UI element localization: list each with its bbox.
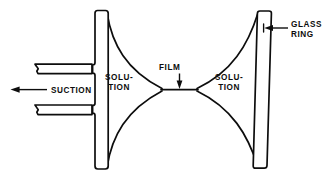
label-glass-ring-line2: RING [291,30,314,39]
diagram-canvas [0,0,329,178]
suction-tube-upper-wall [35,64,92,73]
label-glass-ring: GLASSRING [291,20,322,40]
label-solution-left-line1: SOLU- [105,73,133,82]
label-solution-right: SOLU-TION [215,73,243,93]
label-solution-left-line2: TION [108,83,130,92]
film-arrowhead-icon [177,81,183,89]
label-glass-ring-line1: GLASS [291,20,322,29]
lower-meniscus-right-curve [197,91,258,167]
label-solution-right-line2: TION [218,83,240,92]
label-solution-left: SOLU-TION [105,73,133,93]
right-glass-ring-body [253,11,271,168]
suction-arrowhead-icon [11,87,20,93]
figure-container: SUCTION SOLU-TION SOLU-TION FILM GLASSRI… [0,0,329,178]
lower-meniscus-left-curve [107,91,162,167]
label-suction: SUCTION [51,86,92,95]
suction-tube-lower-wall [35,105,92,115]
label-solution-right-line1: SOLU- [215,73,243,82]
label-film: FILM [159,63,180,72]
